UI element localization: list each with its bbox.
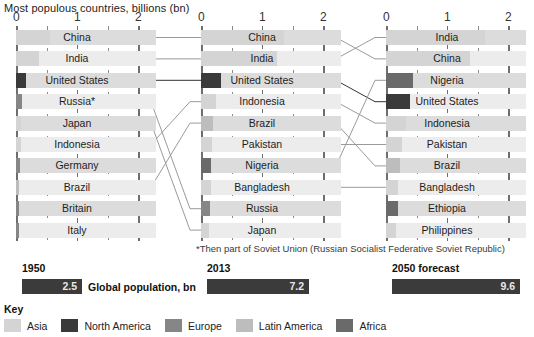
panel-2050: 0 1 2 IndiaChinaNigeriaUnited StatesIndo… <box>374 10 526 241</box>
country-row[interactable]: Russia* <box>16 94 156 109</box>
country-row[interactable]: India <box>201 51 341 66</box>
total-2013: 2013 7.2 <box>207 262 309 295</box>
axis-labels-1950: 0 1 2 <box>4 10 156 26</box>
total-1950: 1950 2.5Global population, bn <box>22 262 196 295</box>
country-row[interactable]: Russia <box>201 201 341 216</box>
country-row[interactable]: Italy <box>16 223 156 238</box>
country-row[interactable]: United States <box>16 73 156 88</box>
axis-labels-2013: 0 1 2 <box>189 10 341 26</box>
country-label: China <box>386 51 508 66</box>
country-row[interactable]: Japan <box>201 223 341 238</box>
legend-item[interactable]: Asia <box>4 319 47 332</box>
legend-swatch <box>165 319 182 332</box>
total-year-label: 1950 <box>22 262 196 274</box>
country-label: Bangladesh <box>386 180 508 195</box>
country-row[interactable]: China <box>201 30 341 45</box>
plot-area-1950: ChinaIndiaUnited StatesRussia*JapanIndon… <box>4 26 156 241</box>
total-caption: Global population, bn <box>88 281 196 293</box>
total-2050: 2050 forecast 9.6 <box>392 262 520 295</box>
country-label: Pakistan <box>201 137 323 152</box>
total-value: 7.2 <box>289 279 304 294</box>
country-row[interactable]: Brazil <box>201 116 341 131</box>
legend-label: Europe <box>188 320 222 332</box>
total-value: 9.6 <box>500 279 515 294</box>
axis-tick-0: 0 <box>198 10 205 24</box>
country-label: Brazil <box>16 180 138 195</box>
country-row[interactable]: Nigeria <box>201 158 341 173</box>
country-row[interactable]: United States <box>201 73 341 88</box>
axis-tick-0: 0 <box>13 10 20 24</box>
country-label: Britain <box>16 201 138 216</box>
legend-item[interactable]: Latin America <box>236 319 323 332</box>
country-label: United States <box>201 73 323 88</box>
axis-tick-1: 1 <box>74 10 81 24</box>
country-row[interactable]: Indonesia <box>386 116 526 131</box>
country-row[interactable]: Indonesia <box>201 94 341 109</box>
legend-title: Key <box>4 303 400 315</box>
country-row[interactable]: Britain <box>16 201 156 216</box>
country-row[interactable]: Brazil <box>386 158 526 173</box>
legend-item[interactable]: Europe <box>165 319 222 332</box>
country-label: China <box>16 30 138 45</box>
country-label: Russia <box>201 201 323 216</box>
country-label: India <box>386 30 508 45</box>
legend-label: Africa <box>359 320 386 332</box>
country-label: Ethiopia <box>386 201 508 216</box>
country-row[interactable]: United States <box>386 94 526 109</box>
country-label: Russia* <box>16 94 138 109</box>
axis-tick-0: 0 <box>383 10 390 24</box>
axis-tick-2: 2 <box>505 10 512 24</box>
footnote: *Then part of Soviet Union (Russian Soci… <box>196 243 505 254</box>
country-row[interactable]: Nigeria <box>386 73 526 88</box>
country-label: Italy <box>16 223 138 238</box>
country-label: Brazil <box>201 116 323 131</box>
country-row[interactable]: India <box>386 30 526 45</box>
axis-tick-2: 2 <box>320 10 327 24</box>
country-row[interactable]: India <box>16 51 156 66</box>
country-label: Philippines <box>386 223 508 238</box>
total-value: 2.5 <box>62 279 77 294</box>
country-label: China <box>201 30 323 45</box>
country-row[interactable]: Indonesia <box>16 137 156 152</box>
country-label: Bangladesh <box>201 180 323 195</box>
country-row[interactable]: China <box>386 51 526 66</box>
total-bar: 2.5 <box>22 279 82 294</box>
axis-tick-1: 1 <box>259 10 266 24</box>
panel-2013: 0 1 2 ChinaIndiaUnited StatesIndonesiaBr… <box>189 10 341 241</box>
country-label: India <box>201 51 323 66</box>
country-label: Germany <box>16 158 138 173</box>
country-label: Nigeria <box>386 73 508 88</box>
country-label: Nigeria <box>201 158 323 173</box>
legend-item[interactable]: North America <box>61 319 151 332</box>
country-label: Japan <box>201 223 323 238</box>
country-label: United States <box>16 73 138 88</box>
country-label: United States <box>386 94 508 109</box>
legend-swatch <box>236 319 253 332</box>
legend-item[interactable]: Africa <box>336 319 386 332</box>
legend-items: AsiaNorth AmericaEuropeLatin AmericaAfri… <box>4 319 400 332</box>
country-row[interactable]: Pakistan <box>201 137 341 152</box>
legend-label: Asia <box>27 320 47 332</box>
plot-area-2013: ChinaIndiaUnited StatesIndonesiaBrazilPa… <box>189 26 341 241</box>
legend-swatch <box>336 319 353 332</box>
legend-label: Latin America <box>259 320 323 332</box>
country-row[interactable]: Philippines <box>386 223 526 238</box>
country-row[interactable]: Brazil <box>16 180 156 195</box>
country-row[interactable]: Bangladesh <box>201 180 341 195</box>
total-bar: 9.6 <box>392 279 520 294</box>
country-row[interactable]: China <box>16 30 156 45</box>
legend-swatch <box>4 319 21 332</box>
country-label: Indonesia <box>201 94 323 109</box>
total-bar: 7.2 <box>207 279 309 294</box>
country-row[interactable]: Pakistan <box>386 137 526 152</box>
axis-tick-1: 1 <box>444 10 451 24</box>
country-label: Pakistan <box>386 137 508 152</box>
country-label: Japan <box>16 116 138 131</box>
country-row[interactable]: Bangladesh <box>386 180 526 195</box>
legend-swatch <box>61 319 78 332</box>
country-row[interactable]: Japan <box>16 116 156 131</box>
country-row[interactable]: Germany <box>16 158 156 173</box>
axis-labels-2050: 0 1 2 <box>374 10 526 26</box>
country-row[interactable]: Ethiopia <box>386 201 526 216</box>
total-year-label: 2013 <box>207 262 309 274</box>
